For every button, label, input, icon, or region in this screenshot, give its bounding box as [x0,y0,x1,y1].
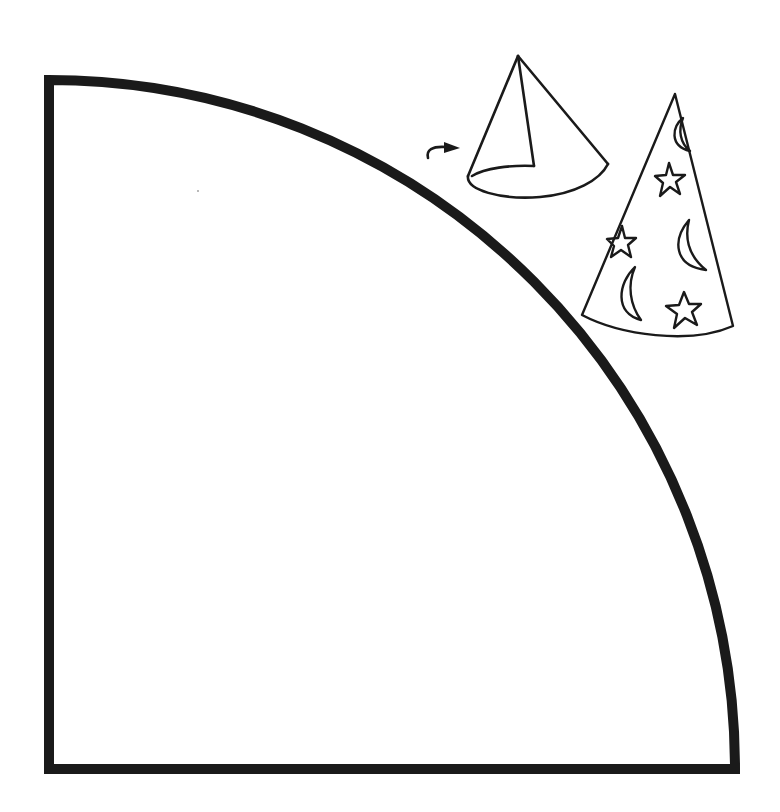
quarter-circle-template [49,80,735,769]
rolled-cone-icon [468,56,608,198]
template-drawing [0,0,780,812]
template-page: Party hat cone template [0,0,780,812]
decorated-party-hat-icon [582,94,733,336]
curved-arrow-icon [428,142,460,158]
speck-dot [197,190,199,192]
